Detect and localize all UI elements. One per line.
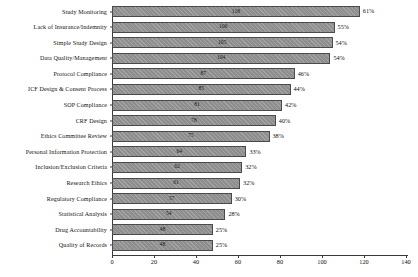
bar-chart: Study Monitoring11861%Lack of Insurance/… — [0, 0, 418, 277]
bar-value-label: 62 — [174, 165, 180, 171]
category-label: Protocol Compliance — [53, 71, 107, 77]
bar-percent-label: 40% — [279, 118, 290, 124]
bar-row: Protocol Compliance8746% — [112, 68, 406, 79]
bar-row: Drug Accountability4825% — [112, 224, 406, 235]
bar-row: Lack of Insurance/Indemnity10655% — [112, 22, 406, 33]
bar: 78 — [112, 115, 276, 126]
category-label: Ethics Committee Review — [41, 133, 107, 139]
category-label: Data Quality/Management — [40, 55, 107, 61]
category-label: Study Monitoring — [62, 8, 107, 14]
category-label: Inclusion/Exclusion Criteria — [35, 164, 107, 170]
bar-row: Personal Information Protection6433% — [112, 146, 406, 157]
bar: 118 — [112, 6, 360, 17]
x-axis-tick-label: 60 — [235, 259, 241, 265]
x-axis-tick-label: 80 — [277, 259, 283, 265]
bar-value-label: 87 — [201, 71, 207, 77]
x-axis-tick-label: 140 — [401, 259, 410, 265]
bar-value-label: 48 — [160, 227, 166, 233]
bar: 85 — [112, 84, 291, 95]
bar-percent-label: 28% — [228, 211, 239, 217]
bar-value-label: 54 — [166, 211, 172, 217]
category-label: Lack of Insurance/Indemnity — [34, 24, 107, 30]
bar-row: Ethics Committee Review7538% — [112, 131, 406, 142]
bar-row: Study Monitoring11861% — [112, 6, 406, 17]
bar-rows: Study Monitoring11861%Lack of Insurance/… — [112, 6, 406, 251]
bar: 81 — [112, 100, 282, 111]
bar-percent-label: 25% — [216, 242, 227, 248]
bar-row: ICF Design & Consent Process8544% — [112, 84, 406, 95]
bar-row: Inclusion/Exclusion Criteria6232% — [112, 162, 406, 173]
x-axis-tick-label: 100 — [317, 259, 326, 265]
bar-row: CRF Design7840% — [112, 115, 406, 126]
category-label: Simple Study Design — [53, 40, 107, 46]
bar-value-label: 61 — [173, 180, 179, 186]
bar-row: SOP Compliance8142% — [112, 100, 406, 111]
bar: 87 — [112, 68, 295, 79]
bar-value-label: 48 — [160, 243, 166, 249]
bar: 104 — [112, 53, 330, 64]
bar: 106 — [112, 22, 335, 33]
bar-percent-label: 32% — [243, 180, 254, 186]
bar-value-label: 118 — [232, 9, 240, 15]
category-label: SOP Compliance — [64, 102, 107, 108]
bar-percent-label: 54% — [333, 55, 344, 61]
bar-percent-label: 44% — [294, 86, 305, 92]
category-label: CRF Design — [76, 118, 107, 124]
bar: 62 — [112, 162, 242, 173]
category-label: Quality of Records — [59, 242, 107, 248]
bar-percent-label: 30% — [235, 196, 246, 202]
bar-row: Quality of Records4825% — [112, 240, 406, 251]
bar-percent-label: 38% — [273, 133, 284, 139]
bar: 48 — [112, 240, 213, 251]
bar-percent-label: 46% — [298, 71, 309, 77]
bar-row: Regulatory Compliance5730% — [112, 193, 406, 204]
category-label: Research Ethics — [66, 180, 107, 186]
bar-percent-label: 54% — [336, 40, 347, 46]
category-label: ICF Design & Consent Process — [28, 86, 107, 92]
bar-row: Data Quality/Management10454% — [112, 53, 406, 64]
category-label: Statistical Analysis — [58, 211, 107, 217]
bar-value-label: 57 — [169, 196, 175, 202]
bar: 75 — [112, 131, 270, 142]
bar-percent-label: 55% — [338, 24, 349, 30]
bar: 54 — [112, 209, 225, 220]
x-axis-tick-label: 20 — [151, 259, 157, 265]
x-axis-tick-label: 0 — [110, 259, 113, 265]
category-label: Regulatory Compliance — [47, 196, 107, 202]
category-label: Personal Information Protection — [26, 149, 107, 155]
bar-value-label: 78 — [191, 118, 197, 124]
bar-value-label: 75 — [188, 133, 194, 139]
bar-percent-label: 61% — [363, 8, 374, 14]
x-axis-tick-label: 120 — [359, 259, 368, 265]
bar: 57 — [112, 193, 232, 204]
bar-row: Research Ethics6132% — [112, 178, 406, 189]
x-axis-tick-label: 40 — [193, 259, 199, 265]
bar-percent-label: 42% — [285, 102, 296, 108]
category-label: Drug Accountability — [55, 227, 107, 233]
bar: 64 — [112, 146, 246, 157]
bar-value-label: 106 — [219, 24, 227, 30]
bar-value-label: 104 — [217, 55, 225, 61]
bar-value-label: 64 — [176, 149, 182, 155]
plot-area: Study Monitoring11861%Lack of Insurance/… — [112, 6, 406, 251]
bar-row: Statistical Analysis5428% — [112, 209, 406, 220]
x-axis: 020406080100120140 — [112, 255, 406, 275]
bar-value-label: 85 — [198, 87, 204, 93]
bar-row: Simple Study Design10554% — [112, 37, 406, 48]
bar: 105 — [112, 37, 333, 48]
bar-value-label: 81 — [194, 102, 200, 108]
bar-percent-label: 33% — [249, 149, 260, 155]
bar: 61 — [112, 178, 240, 189]
bar: 48 — [112, 224, 213, 235]
bar-percent-label: 25% — [216, 227, 227, 233]
bar-percent-label: 32% — [245, 164, 256, 170]
bar-value-label: 105 — [218, 40, 226, 46]
